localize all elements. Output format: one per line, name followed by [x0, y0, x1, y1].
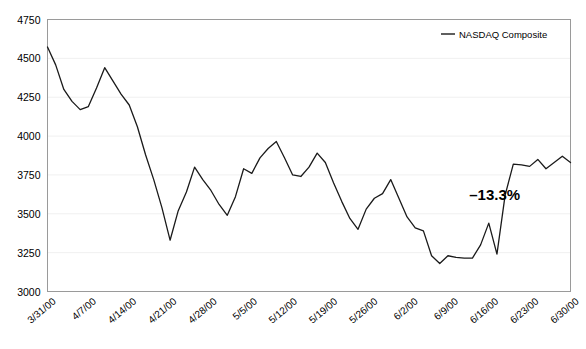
chart-container: 47504500425040003750350032503000 3/31/00…: [0, 0, 586, 349]
y-axis-tick-label: 4000: [17, 130, 41, 142]
annotation-percent-change: –13.3%: [469, 186, 520, 203]
y-axis-tick-label: 3000: [17, 286, 41, 298]
y-axis-tick-label: 3250: [17, 247, 41, 259]
y-axis-tick-label: 4250: [17, 91, 41, 103]
y-axis-tick-label: 4750: [17, 14, 41, 26]
y-axis-tick-label: 3750: [17, 169, 41, 181]
y-axis-tick-label: 3500: [17, 208, 41, 220]
y-axis-tick-label: 4500: [17, 52, 41, 64]
nasdaq-composite-line-chart: 47504500425040003750350032503000 3/31/00…: [0, 0, 586, 349]
legend-label-nasdaq-composite: NASDAQ Composite: [459, 29, 547, 40]
